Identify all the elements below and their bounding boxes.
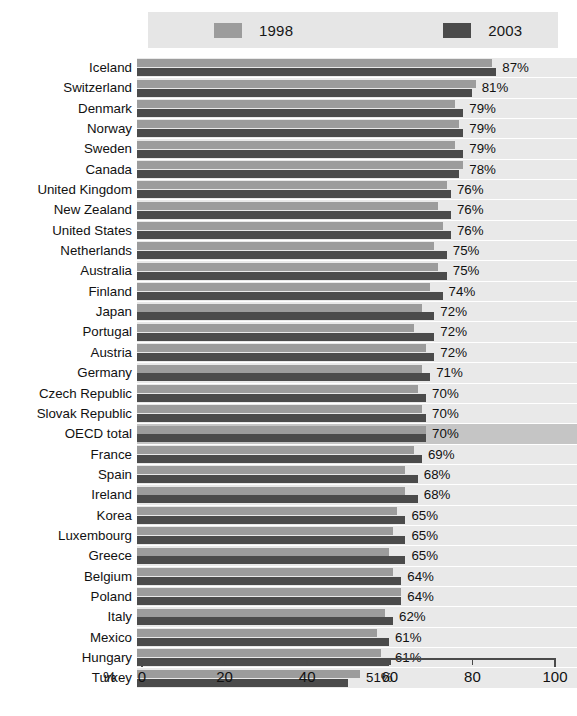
category-label: Japan bbox=[0, 302, 137, 322]
bar-group bbox=[137, 241, 550, 259]
x-axis-tick-label: 60 bbox=[381, 668, 398, 685]
bar-1998 bbox=[137, 527, 393, 535]
bar-group bbox=[137, 445, 550, 463]
category-label: Austria bbox=[0, 343, 137, 363]
chart-row: Ireland68% bbox=[0, 485, 577, 505]
bar-1998 bbox=[137, 120, 459, 128]
category-label: Sweden bbox=[0, 139, 137, 159]
bar-1998 bbox=[137, 588, 401, 596]
value-label: 64% bbox=[407, 567, 434, 587]
chart-row: Norway79% bbox=[0, 119, 577, 139]
bar-2003 bbox=[137, 638, 389, 646]
bar-2003 bbox=[137, 251, 447, 259]
bar-group bbox=[137, 282, 550, 300]
x-axis-unit-label: % bbox=[103, 668, 116, 685]
bar-1998 bbox=[137, 141, 455, 149]
bar-group bbox=[137, 343, 550, 361]
value-label: 79% bbox=[469, 119, 496, 139]
row-plot-cell: 62% bbox=[137, 607, 577, 627]
chart-row: Poland64% bbox=[0, 587, 577, 607]
bar-1998 bbox=[137, 181, 447, 189]
row-plot-cell: 79% bbox=[137, 99, 577, 119]
value-label: 70% bbox=[432, 384, 459, 404]
x-axis-tick-label: 20 bbox=[216, 668, 233, 685]
bar-group bbox=[137, 506, 550, 524]
bar-2003 bbox=[137, 516, 405, 524]
bar-group bbox=[137, 180, 550, 198]
value-label: 61% bbox=[395, 628, 422, 648]
bar-1998 bbox=[137, 222, 443, 230]
chart-page: 1998 2003 Iceland87%Switzerland81%Denmar… bbox=[0, 0, 577, 716]
row-plot-cell: 64% bbox=[137, 567, 577, 587]
bar-1998 bbox=[137, 263, 438, 271]
chart-row: United States76% bbox=[0, 221, 577, 241]
bar-2003 bbox=[137, 109, 463, 117]
category-label: Switzerland bbox=[0, 78, 137, 98]
chart-row: Portugal72% bbox=[0, 322, 577, 342]
category-label: Spain bbox=[0, 465, 137, 485]
row-plot-cell: 65% bbox=[137, 506, 577, 526]
legend-label-2003: 2003 bbox=[488, 22, 522, 39]
row-plot-cell: 75% bbox=[137, 241, 577, 261]
bar-group bbox=[137, 200, 550, 218]
value-label: 65% bbox=[411, 546, 438, 566]
category-label: France bbox=[0, 445, 137, 465]
row-plot-cell: 71% bbox=[137, 363, 577, 383]
value-label: 75% bbox=[453, 261, 480, 281]
row-plot-cell: 76% bbox=[137, 180, 577, 200]
chart-row: Italy62% bbox=[0, 607, 577, 627]
chart-row: Australia75% bbox=[0, 261, 577, 281]
bar-group bbox=[137, 465, 550, 483]
bar-2003 bbox=[137, 211, 451, 219]
x-axis: % 020406080100 bbox=[0, 658, 577, 716]
value-label: 70% bbox=[432, 404, 459, 424]
bar-2003 bbox=[137, 150, 463, 158]
row-plot-cell: 68% bbox=[137, 485, 577, 505]
chart-row: Japan72% bbox=[0, 302, 577, 322]
bar-group bbox=[137, 404, 550, 422]
chart-row: Netherlands75% bbox=[0, 241, 577, 261]
value-label: 62% bbox=[399, 607, 426, 627]
value-label: 75% bbox=[453, 241, 480, 261]
bar-group bbox=[137, 526, 550, 544]
chart-row: Luxembourg65% bbox=[0, 526, 577, 546]
bar-1998 bbox=[137, 344, 426, 352]
bar-2003 bbox=[137, 434, 426, 442]
bar-group bbox=[137, 58, 550, 76]
bar-2003 bbox=[137, 373, 430, 381]
value-label: 72% bbox=[440, 343, 467, 363]
chart-row: Austria72% bbox=[0, 343, 577, 363]
category-label: United Kingdom bbox=[0, 180, 137, 200]
bar-group bbox=[137, 546, 550, 564]
bar-group bbox=[137, 221, 550, 239]
chart-row: Spain68% bbox=[0, 465, 577, 485]
category-label: Czech Republic bbox=[0, 384, 137, 404]
bar-group bbox=[137, 485, 550, 503]
category-label: Netherlands bbox=[0, 241, 137, 261]
row-plot-cell: 61% bbox=[137, 628, 577, 648]
value-label: 79% bbox=[469, 139, 496, 159]
value-label: 78% bbox=[469, 160, 496, 180]
bar-group bbox=[137, 628, 550, 646]
row-plot-cell: 79% bbox=[137, 119, 577, 139]
bar-group bbox=[137, 322, 550, 340]
row-plot-cell: 69% bbox=[137, 445, 577, 465]
bar-1998 bbox=[137, 507, 397, 515]
bar-1998 bbox=[137, 161, 463, 169]
chart-row: Sweden79% bbox=[0, 139, 577, 159]
bar-2003 bbox=[137, 170, 459, 178]
row-plot-cell: 74% bbox=[137, 282, 577, 302]
row-plot-cell: 64% bbox=[137, 587, 577, 607]
bar-1998 bbox=[137, 466, 405, 474]
value-label: 71% bbox=[436, 363, 463, 383]
value-label: 79% bbox=[469, 99, 496, 119]
value-label: 81% bbox=[482, 78, 509, 98]
value-label: 74% bbox=[449, 282, 476, 302]
row-plot-cell: 76% bbox=[137, 221, 577, 241]
bar-group bbox=[137, 302, 550, 320]
chart-row: United Kingdom76% bbox=[0, 180, 577, 200]
bar-1998 bbox=[137, 487, 405, 495]
category-label: Norway bbox=[0, 119, 137, 139]
chart-row: Finland74% bbox=[0, 282, 577, 302]
x-axis-tick bbox=[306, 658, 308, 665]
